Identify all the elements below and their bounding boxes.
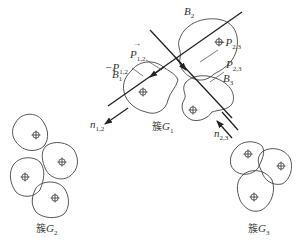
particle-b1-outline <box>123 62 178 113</box>
label-b3: B3 <box>223 72 234 87</box>
cluster-contact-diagram: B2 B1 B3 P1,2 → −P1,2 −P2,3 P2,3 n1,2 n2… <box>0 0 304 245</box>
particle-g3-1-center-icon <box>244 150 253 159</box>
cluster-g2-label: 簇G2 <box>36 222 58 237</box>
cluster-g3-label: 簇G3 <box>248 222 270 237</box>
particle-g2-2-outline <box>42 143 77 179</box>
cluster-g2: 簇G2 <box>10 114 77 237</box>
label-neg-p23: −P2,3 <box>218 36 241 51</box>
arrow-p12 <box>150 67 164 77</box>
particle-g2-1-center-icon <box>32 131 41 140</box>
label-n23: n2,3 <box>214 127 229 142</box>
particle-b3-center-icon <box>189 106 198 115</box>
particle-g2-2-center-icon <box>58 158 67 167</box>
particle-g2-4-center-icon <box>51 194 60 203</box>
particle-g2-3-center-icon <box>21 173 30 182</box>
particle-b1-center-icon <box>139 88 148 97</box>
particle-g3-3-outline <box>237 171 273 212</box>
cluster-g1: B2 B1 B3 P1,2 → −P1,2 −P2,3 P2,3 n1,2 n2… <box>90 5 242 142</box>
contact-line-1-2 <box>108 12 242 106</box>
label-n12: n1,2 <box>90 118 105 133</box>
particle-g2-4-outline <box>32 182 68 218</box>
label-p12: P1,2 <box>129 48 146 63</box>
normal-n12-arrow <box>105 108 128 124</box>
label-b2: B2 <box>184 5 195 20</box>
leader-neg-p12 <box>132 68 143 76</box>
leader-neg-p23 <box>200 50 218 62</box>
particle-g2-1-outline <box>13 114 48 150</box>
cluster-g1-label: 簇G1 <box>152 120 174 135</box>
arrow-over-p12-icon: → <box>133 39 141 48</box>
particle-g3-3-center-icon <box>250 193 259 202</box>
particle-g3-2-center-icon <box>277 162 286 171</box>
cluster-g3: 簇G3 <box>230 142 291 237</box>
leader-p12 <box>146 60 162 70</box>
normal-n23-guide <box>222 112 238 130</box>
label-p23: P2,3 <box>225 58 242 73</box>
